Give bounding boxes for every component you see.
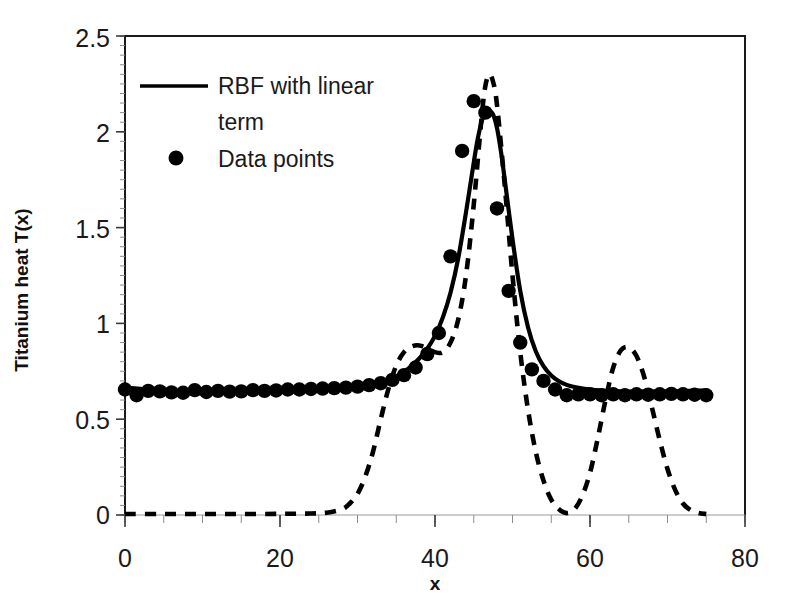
data-point-dot <box>443 249 457 263</box>
y-tick-label-1: 1 <box>96 310 110 338</box>
legend-label-rbf-line-1: RBF with linear <box>218 73 374 99</box>
data-point-dot <box>501 284 515 298</box>
legend-label-rbf-line-2: term <box>218 109 264 135</box>
legend-label-data-points: Data points <box>218 146 334 172</box>
data-point-dot <box>432 326 446 340</box>
y-axis-ticks <box>116 36 125 515</box>
x-tick-label-0: 0 <box>118 544 132 572</box>
x-axis-title: x <box>430 573 441 594</box>
data-point-dot <box>536 374 550 388</box>
y-tick-label-1-5: 1.5 <box>75 215 110 243</box>
data-point-dot <box>478 105 492 119</box>
series-dashed-rbf-no-linear <box>125 74 706 514</box>
data-point-dot <box>490 201 504 215</box>
x-tick-label-20: 20 <box>266 544 294 572</box>
data-point-dot <box>420 347 434 361</box>
data-point-markers <box>118 94 714 403</box>
chart-svg: 0 0.5 1 1.5 2 2.5 0 20 40 60 80 x Titani… <box>0 0 787 613</box>
frame-border <box>125 36 745 515</box>
y-tick-label-2-5: 2.5 <box>75 24 110 52</box>
x-tick-labels: 0 20 40 60 80 <box>118 544 759 572</box>
chart-container: 0 0.5 1 1.5 2 2.5 0 20 40 60 80 x Titani… <box>0 0 787 613</box>
data-point-dot <box>467 94 481 108</box>
y-tick-label-0: 0 <box>96 501 110 529</box>
y-tick-labels: 0 0.5 1 1.5 2 2.5 <box>75 24 110 529</box>
data-point-dot <box>455 144 469 158</box>
legend: RBF with linear term Data points <box>140 73 374 172</box>
y-axis-title: Titanium heat T(x) <box>11 208 32 371</box>
legend-dot-swatch <box>169 151 184 166</box>
y-tick-label-2: 2 <box>96 119 110 147</box>
x-tick-label-40: 40 <box>421 544 449 572</box>
data-point-dot <box>525 362 539 376</box>
y-tick-label-0-5: 0.5 <box>75 406 110 434</box>
x-tick-label-60: 60 <box>576 544 604 572</box>
data-point-dot <box>408 360 422 374</box>
data-point-dot <box>513 335 527 349</box>
plot-frame <box>125 36 745 515</box>
x-axis-ticks <box>125 515 745 527</box>
x-tick-label-80: 80 <box>731 544 759 572</box>
data-point-dot <box>699 388 713 402</box>
